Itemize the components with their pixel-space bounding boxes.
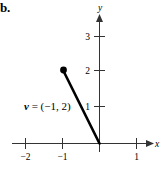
x-axis-label: x	[154, 139, 160, 149]
x-tick-label-neg2: −2	[20, 152, 30, 162]
y-axis-label: y	[97, 3, 103, 13]
y-axis-arrow-icon	[96, 14, 103, 22]
y-tick-label-3: 3	[85, 32, 90, 42]
vector-close-paren: )	[67, 100, 71, 112]
vector-v-annotation: v = (−1, 2)	[24, 101, 71, 112]
vector-figure: b. −2 −1 1 1 2 3 x y v = (−1, 2)	[0, 0, 167, 170]
y-tick-label-2: 2	[85, 66, 90, 76]
coordinate-plot: −2 −1 1 1 2 3 x y	[0, 0, 167, 170]
x-tick-label-1: 1	[134, 152, 139, 162]
vector-components: −1, 2	[44, 100, 67, 112]
y-tick-label-1: 1	[85, 102, 90, 112]
vector-v-endpoint-dot	[60, 67, 67, 74]
x-tick-label-neg1: −1	[57, 152, 67, 162]
vector-equals-open: = (	[29, 100, 44, 112]
x-axis-arrow-icon	[146, 140, 154, 147]
